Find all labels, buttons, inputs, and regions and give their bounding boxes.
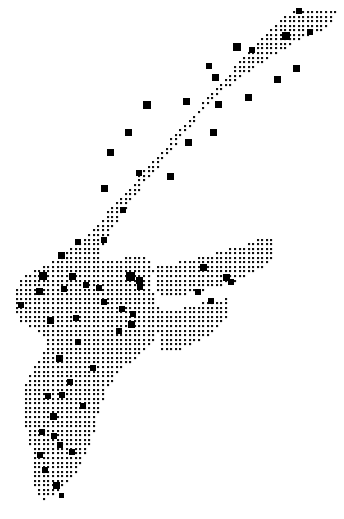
dot-grid-map-figure xyxy=(0,0,344,519)
dot-grid-layer xyxy=(0,0,344,519)
